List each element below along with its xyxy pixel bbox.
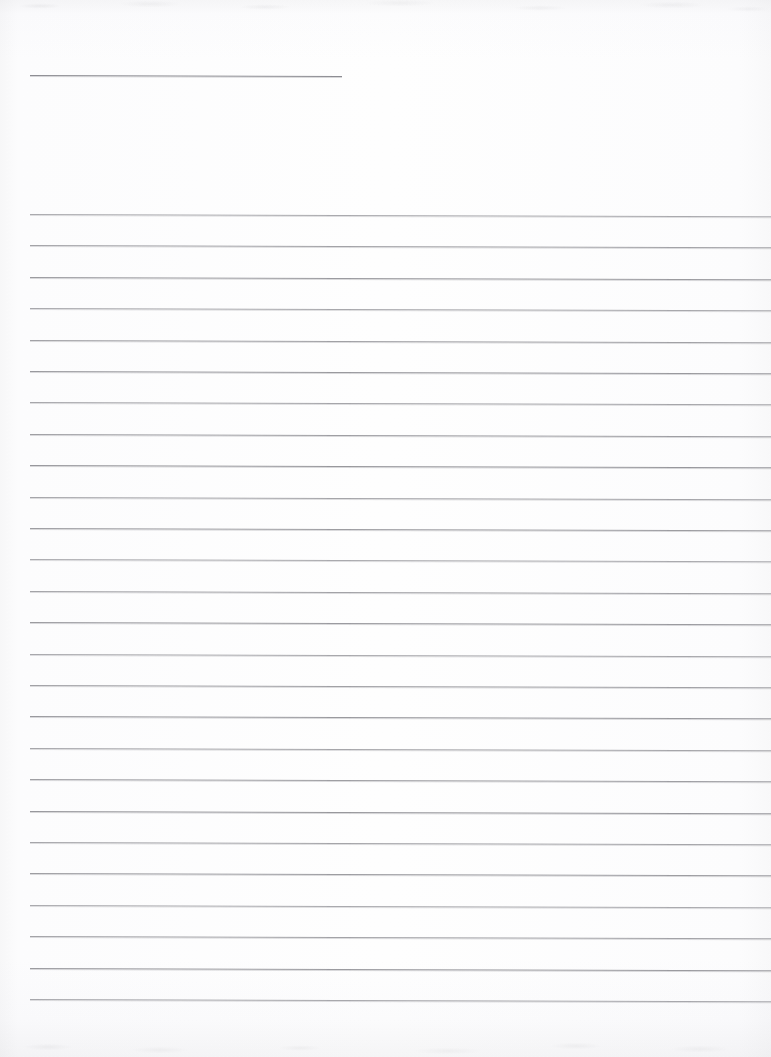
ruled-line <box>30 214 771 217</box>
ruled-line <box>30 905 771 908</box>
ruled-line <box>30 528 771 531</box>
ruled-line <box>30 622 771 625</box>
ruled-line <box>30 936 771 939</box>
ruled-line <box>30 654 771 657</box>
ruled-line <box>30 497 771 500</box>
ruled-line <box>30 308 771 311</box>
ruled-line <box>30 340 771 343</box>
ruled-line <box>30 559 771 562</box>
scanned-page <box>0 0 771 1057</box>
ruled-line <box>30 873 771 876</box>
ruled-line <box>30 999 771 1002</box>
ruled-line <box>30 277 771 280</box>
ruled-line <box>30 748 771 751</box>
ruled-line <box>30 842 771 845</box>
ruled-line <box>30 402 771 405</box>
ruled-line <box>30 685 771 688</box>
ruled-lines-layer <box>0 0 771 1057</box>
ruled-line <box>30 811 771 814</box>
ruled-line <box>30 245 771 248</box>
ruled-line <box>30 371 771 374</box>
ruled-line <box>30 968 771 971</box>
ruled-line <box>30 434 771 437</box>
ruled-line <box>30 779 771 782</box>
ruled-line <box>30 716 771 719</box>
ruled-line <box>30 591 771 594</box>
ruled-line <box>30 465 771 468</box>
header-blank-line <box>30 75 342 77</box>
